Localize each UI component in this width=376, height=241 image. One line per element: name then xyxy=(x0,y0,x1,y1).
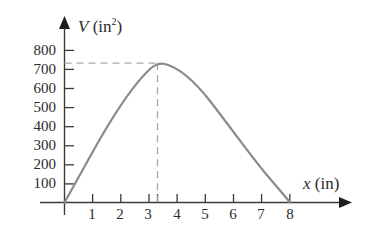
x-tick-label-5: 5 xyxy=(197,206,213,223)
x-axis-title: x (in) xyxy=(303,174,339,194)
x-tick-label-7: 7 xyxy=(253,206,269,223)
x-tick-label-4: 4 xyxy=(169,206,185,223)
y-axis-title-unit-open: (in xyxy=(93,17,112,36)
y-tick-label-400: 400 xyxy=(14,118,56,135)
x-tick-label-1: 1 xyxy=(84,206,100,223)
y-tick-label-600: 600 xyxy=(14,80,56,97)
chart-canvas xyxy=(0,0,376,241)
y-tick-label-200: 200 xyxy=(14,156,56,173)
x-axis-title-variable: x xyxy=(303,174,311,193)
volume-curve xyxy=(65,64,291,203)
y-tick-label-700: 700 xyxy=(14,61,56,78)
volume-function-graph: 800 700 600 500 400 300 200 100 1 2 3 4 … xyxy=(0,0,376,241)
x-tick-label-2: 2 xyxy=(112,206,128,223)
x-tick-label-8: 8 xyxy=(282,206,298,223)
y-axis-title-unit-close: ) xyxy=(117,17,123,36)
y-tick-label-800: 800 xyxy=(14,42,56,59)
x-tick-label-6: 6 xyxy=(225,206,241,223)
y-axis-title: V (in2) xyxy=(78,16,122,37)
y-axis-title-variable: V xyxy=(78,17,88,36)
y-axis-ticks xyxy=(65,50,75,184)
x-axis-ticks xyxy=(93,194,290,203)
y-tick-label-300: 300 xyxy=(14,137,56,154)
y-axis-arrow-icon xyxy=(59,16,70,29)
x-tick-label-3: 3 xyxy=(140,206,156,223)
x-axis-arrow-icon xyxy=(339,197,352,208)
x-axis-title-unit: (in) xyxy=(315,174,340,193)
y-tick-label-100: 100 xyxy=(14,175,56,192)
y-tick-label-500: 500 xyxy=(14,99,56,116)
